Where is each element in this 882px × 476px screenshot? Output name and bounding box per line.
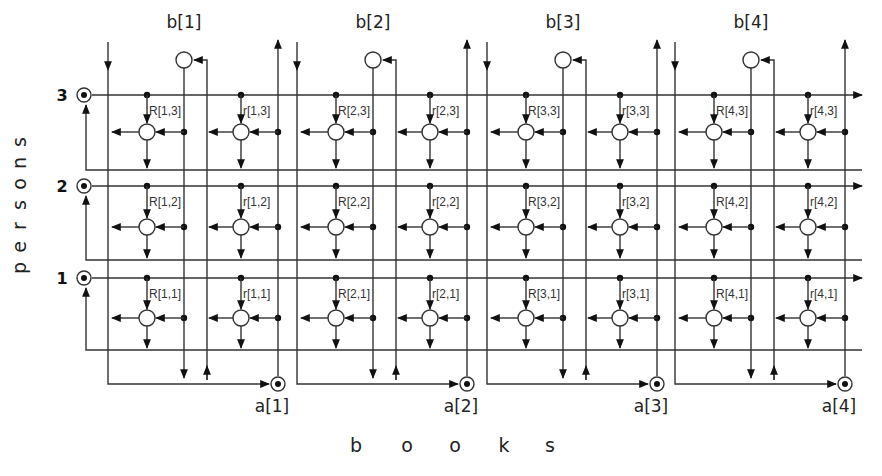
- r-node-2-3: [422, 124, 438, 140]
- r-node-2-1: [422, 310, 438, 326]
- book-1-b-label: b[1]: [167, 12, 202, 32]
- R-label-4-3: R[4,3]: [716, 104, 748, 118]
- R-node-4-1: [706, 310, 722, 326]
- x-axis-label-letter: o: [401, 434, 413, 456]
- network-lines: [77, 40, 862, 391]
- R-node-4-3: [706, 124, 722, 140]
- person-1-label: 1: [56, 269, 67, 288]
- R-node-2-1: [328, 310, 344, 326]
- person-3-terminal-center: [81, 92, 87, 98]
- book-2-a-terminal-center: [464, 381, 470, 387]
- x-axis-label-letter: o: [449, 434, 461, 456]
- person-2-label: 2: [56, 177, 67, 196]
- book-1-a-terminal-center: [275, 381, 281, 387]
- x-axis-label-letter: b: [350, 434, 362, 456]
- book-3-a-label: a[3]: [634, 396, 669, 416]
- y-axis-label-letter: s: [8, 200, 30, 210]
- R-node-4-2: [706, 219, 722, 235]
- r-node-3-1: [612, 310, 628, 326]
- R-node-1-3: [139, 124, 155, 140]
- r-node-1-2: [233, 219, 249, 235]
- person-3-label: 3: [56, 86, 67, 105]
- y-axis-label-letter: e: [8, 241, 30, 253]
- R-label-2-1: R[2,1]: [338, 287, 370, 301]
- R-node-1-2: [139, 219, 155, 235]
- r-node-4-1: [800, 310, 816, 326]
- r-node-1-1: [233, 310, 249, 326]
- book-1-a-label: a[1]: [255, 396, 290, 416]
- R-label-3-2: R[3,2]: [528, 195, 560, 209]
- r-label-2-2: r[2,2]: [432, 195, 459, 209]
- book-2-feedback-line: [383, 60, 396, 380]
- y-axis-label-letter: p: [8, 262, 30, 274]
- person-2-terminal-center: [81, 183, 87, 189]
- person-1-terminal-center: [81, 275, 87, 281]
- R-label-2-3: R[2,3]: [338, 104, 370, 118]
- r-label-1-2: r[1,2]: [243, 195, 270, 209]
- R-label-1-3: R[1,3]: [149, 104, 181, 118]
- r-label-3-2: r[3,2]: [622, 195, 649, 209]
- r-label-2-3: r[2,3]: [432, 104, 459, 118]
- R-node-3-2: [518, 219, 534, 235]
- book-4-b-label: b[4]: [734, 12, 769, 32]
- x-axis-label-letter: k: [498, 434, 509, 456]
- r-node-2-2: [422, 219, 438, 235]
- y-axis-label-letter: o: [8, 178, 30, 190]
- R-label-2-2: R[2,2]: [338, 195, 370, 209]
- R-label-4-2: R[4,2]: [716, 195, 748, 209]
- R-label-1-2: R[1,2]: [149, 195, 181, 209]
- r-node-3-3: [612, 124, 628, 140]
- y-axis-label-letter: n: [8, 157, 30, 169]
- R-label-1-1: R[1,1]: [149, 287, 181, 301]
- r-label-2-1: r[2,1]: [432, 287, 459, 301]
- R-node-2-2: [328, 219, 344, 235]
- book-4-b-node: [743, 52, 759, 68]
- book-4-a-terminal-center: [842, 381, 848, 387]
- x-axis-label-letter: s: [545, 434, 555, 456]
- book-3-b-label: b[3]: [546, 12, 581, 32]
- book-1-b-node: [176, 52, 192, 68]
- book-2-b-node: [365, 52, 381, 68]
- r-label-4-2: r[4,2]: [810, 195, 837, 209]
- r-label-3-1: r[3,1]: [622, 287, 649, 301]
- book-1-feedback-line: [194, 60, 207, 380]
- r-node-4-2: [800, 219, 816, 235]
- y-axis-label-letter: s: [8, 137, 30, 147]
- book-3-a-terminal-center: [654, 381, 660, 387]
- persons-books-network-diagram: 321b[1]a[1]R[1,3]r[1,3]R[1,2]r[1,2]R[1,1…: [0, 0, 882, 476]
- r-label-3-3: r[3,3]: [622, 104, 649, 118]
- r-label-4-1: r[4,1]: [810, 287, 837, 301]
- R-node-3-1: [518, 310, 534, 326]
- r-node-3-2: [612, 219, 628, 235]
- R-label-3-3: R[3,3]: [528, 104, 560, 118]
- book-3-b-node: [555, 52, 571, 68]
- book-2-a-label: a[2]: [444, 396, 479, 416]
- book-4-a-label: a[4]: [822, 396, 857, 416]
- R-node-1-1: [139, 310, 155, 326]
- book-4-feedback-line: [761, 60, 774, 380]
- r-label-1-1: r[1,1]: [243, 287, 270, 301]
- R-label-3-1: R[3,1]: [528, 287, 560, 301]
- R-label-4-1: R[4,1]: [716, 287, 748, 301]
- r-label-1-3: r[1,3]: [243, 104, 270, 118]
- r-node-4-3: [800, 124, 816, 140]
- book-3-feedback-line: [573, 60, 586, 380]
- R-node-2-3: [328, 124, 344, 140]
- r-node-1-3: [233, 124, 249, 140]
- y-axis-label-letter: r: [8, 222, 30, 230]
- R-node-3-3: [518, 124, 534, 140]
- book-2-b-label: b[2]: [356, 12, 391, 32]
- r-label-4-3: r[4,3]: [810, 104, 837, 118]
